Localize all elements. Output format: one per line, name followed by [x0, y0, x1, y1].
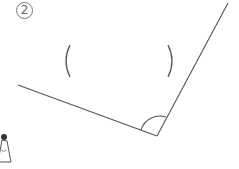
ray-left [18, 85, 157, 136]
left-paren [66, 45, 70, 77]
angle-arc [141, 116, 166, 130]
character-icon [0, 134, 11, 162]
right-paren [168, 45, 172, 77]
angle-diagram [0, 0, 239, 169]
answer-blank[interactable] [74, 44, 164, 78]
ray-right [157, 3, 228, 136]
